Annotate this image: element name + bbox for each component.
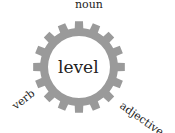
center-word: level xyxy=(58,57,99,77)
label-noun: noun xyxy=(75,0,103,11)
gear-diagram: level noun verb adjective xyxy=(0,0,175,133)
